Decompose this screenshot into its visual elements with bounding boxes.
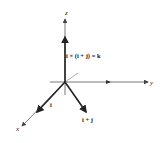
diagram-svg: z y x i × (i + j) = k i i + j <box>0 0 160 143</box>
i-plus-j-vector-label: i + j <box>82 116 93 123</box>
x-axis <box>22 73 78 126</box>
cross-product-label: i × (i + j) = k <box>66 52 101 60</box>
x-axis-label: x <box>15 125 20 133</box>
z-axis-label: z <box>64 9 68 17</box>
cross-product-diagram: z y x i × (i + j) = k i i + j <box>0 0 160 143</box>
i-plus-j-vector <box>65 82 86 112</box>
x-axis-back-stub <box>65 73 78 82</box>
y-axis-label: y <box>149 79 154 87</box>
y-axis-tick-arrow <box>106 80 111 84</box>
i-vector-label: i <box>50 101 52 108</box>
